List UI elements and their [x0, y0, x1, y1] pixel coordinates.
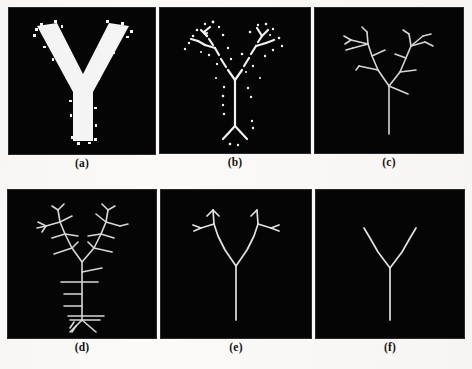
panel-b-graphic: [160, 8, 310, 153]
figure-cell-d: (d): [8, 190, 156, 354]
panel-f-graphic: [316, 190, 464, 338]
figure-cell-e: (e): [161, 190, 311, 354]
caption-c: (c): [382, 157, 395, 169]
panel-c-graphic: [315, 8, 463, 153]
figure-container: (a): [0, 0, 472, 369]
panel-a-graphic: [9, 8, 155, 154]
figure-cell-b: (b): [160, 8, 310, 170]
panel-c-skeleton-with-many-spurious-branches: [315, 8, 463, 153]
caption-a: (a): [75, 158, 89, 170]
caption-d: (d): [75, 342, 90, 354]
panel-b-noisy-skeleton-with-speckles: [160, 8, 310, 153]
figure-cell-f: (f): [316, 190, 464, 354]
panel-d-graphic: [8, 190, 156, 338]
figure-row-top: (a): [0, 8, 472, 170]
figure-row-bottom: (d): [0, 190, 472, 354]
figure-cell-c: (c): [315, 8, 463, 170]
panel-e-graphic: [161, 190, 311, 338]
caption-b: (b): [228, 157, 243, 169]
caption-f: (f): [384, 342, 396, 354]
panel-e-pruned-skeleton: [161, 190, 311, 338]
caption-e: (e): [229, 342, 242, 354]
panel-d-skeleton-with-ladder-spurs: [8, 190, 156, 338]
panel-a-binary-letter-y-original: [9, 8, 155, 154]
figure-cell-a: (a): [9, 8, 155, 170]
panel-f-clean-skeleton: [316, 190, 464, 338]
